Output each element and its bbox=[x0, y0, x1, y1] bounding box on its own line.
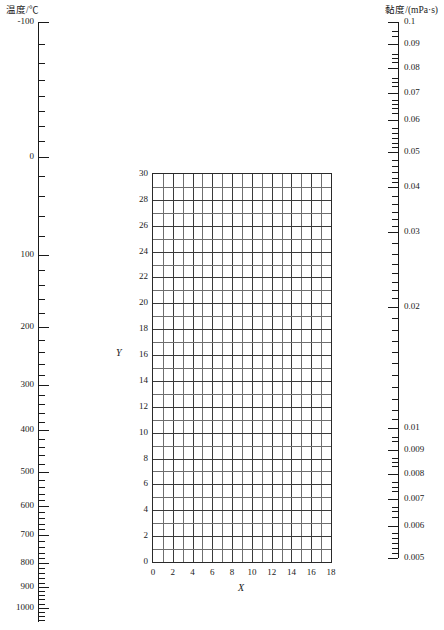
y-tick-label: 28 bbox=[128, 195, 148, 204]
left-axis-tick-label: 800 bbox=[0, 558, 34, 567]
left-axis-tick-major bbox=[39, 22, 49, 23]
right-axis-tick-minor bbox=[392, 113, 398, 114]
right-axis-tick-minor bbox=[392, 419, 398, 420]
left-axis-tick-minor bbox=[39, 352, 45, 353]
y-tick-label: 18 bbox=[128, 324, 148, 333]
right-axis-tick-minor bbox=[392, 352, 398, 353]
left-axis-tick-label: 0 bbox=[0, 152, 34, 161]
left-axis-tick-minor bbox=[39, 583, 45, 584]
left-axis-tick-minor bbox=[39, 524, 45, 525]
grid-line-horizontal bbox=[153, 433, 331, 434]
left-axis-tick-minor bbox=[39, 216, 45, 217]
grid-line-horizontal bbox=[153, 497, 331, 498]
y-tick-label: 12 bbox=[128, 402, 148, 411]
right-axis-tick-minor bbox=[392, 166, 398, 167]
left-axis-tick-minor bbox=[39, 96, 45, 97]
grid-line-horizontal bbox=[153, 484, 331, 485]
right-axis-tick-major bbox=[388, 499, 398, 500]
left-axis-tick-minor bbox=[39, 573, 45, 574]
right-axis-tick-minor bbox=[392, 212, 398, 213]
right-axis-tick-minor bbox=[392, 290, 398, 291]
left-axis-tick-minor bbox=[39, 80, 45, 81]
right-axis-tick-label: 0.007 bbox=[404, 494, 424, 503]
grid-line-horizontal bbox=[153, 277, 331, 278]
left-axis-tick-minor bbox=[39, 313, 45, 314]
right-axis-tick-minor bbox=[392, 363, 398, 364]
grid-line-horizontal bbox=[153, 200, 331, 201]
left-axis-tick-minor bbox=[39, 141, 45, 142]
grid-line-horizontal bbox=[153, 394, 331, 395]
right-axis-tick-minor bbox=[392, 543, 398, 544]
left-axis-tick-major bbox=[39, 608, 49, 609]
left-axis-tick-minor bbox=[39, 126, 45, 127]
left-axis-tick-minor bbox=[39, 595, 45, 596]
right-axis-tick-minor bbox=[392, 341, 398, 342]
right-axis-tick-label: 0.06 bbox=[404, 115, 420, 124]
right-axis-tick-minor bbox=[392, 160, 398, 161]
right-axis-tick-label: 0.03 bbox=[404, 227, 420, 236]
left-axis-tick-minor bbox=[39, 364, 45, 365]
y-tick-label: 4 bbox=[128, 505, 148, 514]
left-axis-tick-major bbox=[39, 506, 49, 507]
y-axis-title: Y bbox=[116, 348, 122, 358]
y-tick-label: 30 bbox=[128, 169, 148, 178]
grid-line-horizontal bbox=[153, 226, 331, 227]
right-axis-tick-label: 0.07 bbox=[404, 88, 420, 97]
right-axis-tick-minor bbox=[392, 399, 398, 400]
left-axis-tick-minor bbox=[39, 63, 45, 64]
grid-line-horizontal bbox=[153, 368, 331, 369]
left-axis-tick-minor bbox=[39, 616, 45, 617]
grid-line-horizontal bbox=[153, 316, 331, 317]
right-axis-tick-minor bbox=[392, 86, 398, 87]
right-axis-tick-minor bbox=[392, 196, 398, 197]
left-axis-tick-minor bbox=[39, 518, 45, 519]
right-axis-tick-label: 0.005 bbox=[404, 553, 424, 562]
right-axis-tick-label: 0.01 bbox=[404, 423, 420, 432]
right-axis-tick-minor bbox=[392, 243, 398, 244]
right-axis-tick-minor bbox=[392, 143, 398, 144]
grid-line-horizontal bbox=[153, 329, 331, 330]
right-axis-tick-major bbox=[388, 152, 398, 153]
right-axis-tick-minor bbox=[392, 517, 398, 518]
left-axis-tick-label: 100 bbox=[0, 250, 34, 259]
grid-line-horizontal bbox=[153, 213, 331, 214]
y-tick-label: 24 bbox=[128, 247, 148, 256]
plot-grid-area[interactable] bbox=[152, 173, 332, 563]
right-axis-tick-label: 0.09 bbox=[404, 39, 420, 48]
right-axis-tick-minor bbox=[392, 330, 398, 331]
right-axis-tick-minor bbox=[392, 548, 398, 549]
left-axis-tick-minor bbox=[39, 439, 45, 440]
right-axis-tick-minor bbox=[392, 204, 398, 205]
left-axis-tick-minor bbox=[39, 558, 45, 559]
left-axis-tick-label: 200 bbox=[0, 322, 34, 331]
right-axis-tick-minor bbox=[392, 182, 398, 183]
right-axis-tick-minor bbox=[392, 138, 398, 139]
right-axis-tick-minor bbox=[392, 219, 398, 220]
left-axis-tick-minor bbox=[39, 270, 45, 271]
y-tick-label: 6 bbox=[128, 479, 148, 488]
grid-line-horizontal bbox=[153, 471, 331, 472]
grid-line-horizontal bbox=[153, 510, 331, 511]
grid-line-horizontal bbox=[153, 536, 331, 537]
left-axis-tick-minor bbox=[39, 447, 45, 448]
left-axis-tick-minor bbox=[39, 620, 45, 621]
y-tick-label: 16 bbox=[128, 350, 148, 359]
left-axis-tick-major bbox=[39, 430, 49, 431]
left-axis-tick-label: 400 bbox=[0, 425, 34, 434]
left-axis-tick-minor bbox=[39, 422, 45, 423]
grid-line-horizontal bbox=[153, 303, 331, 304]
right-axis-tick-minor bbox=[392, 482, 398, 483]
x-tick-label: 18 bbox=[319, 568, 343, 577]
right-axis-tick-label: 0.08 bbox=[404, 63, 420, 72]
left-axis-tick-label: 500 bbox=[0, 467, 34, 476]
right-axis-tick-minor bbox=[392, 298, 398, 299]
left-axis-tick-major bbox=[39, 472, 49, 473]
right-axis-tick-minor bbox=[392, 441, 398, 442]
right-axis-tick-major bbox=[388, 187, 398, 188]
y-tick-label: 22 bbox=[128, 272, 148, 281]
left-axis-tick-major bbox=[39, 535, 49, 536]
left-axis-tick-minor bbox=[39, 236, 45, 237]
right-axis-tick-minor bbox=[392, 58, 398, 59]
right-axis-tick-major bbox=[388, 526, 398, 527]
left-axis-tick-label: 600 bbox=[0, 501, 34, 510]
